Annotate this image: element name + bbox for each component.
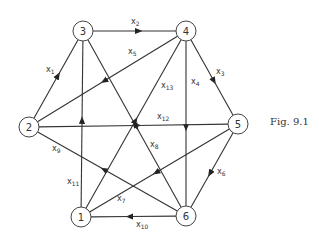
edge-label-x5: x5 bbox=[128, 47, 137, 57]
edge-label-x11: x11 bbox=[67, 177, 80, 187]
edge-x7 bbox=[90, 173, 156, 212]
node-2: 2 bbox=[19, 117, 39, 137]
edge-label-x8: x8 bbox=[150, 140, 159, 150]
edge-x13 bbox=[135, 40, 181, 121]
edge-x13-arrow-segment bbox=[86, 121, 136, 209]
node-1: 1 bbox=[71, 207, 91, 227]
edge-x12-arrow-segment bbox=[39, 125, 138, 126]
edge-x12 bbox=[137, 124, 228, 125]
node-label: 1 bbox=[78, 212, 84, 223]
edge-x11 bbox=[82, 41, 83, 120]
edge-x5 bbox=[38, 81, 105, 122]
edge-x11-arrow-segment bbox=[81, 120, 82, 207]
edge-label-x2: x2 bbox=[131, 17, 140, 27]
edge-label-x3: x3 bbox=[216, 67, 225, 77]
edge-x3 bbox=[214, 81, 233, 115]
node-label: 4 bbox=[183, 26, 189, 37]
node-4: 4 bbox=[176, 21, 196, 41]
edge-label-x13: x13 bbox=[161, 81, 174, 91]
node-3: 3 bbox=[73, 21, 93, 41]
edge-label-x4: x4 bbox=[191, 77, 200, 87]
node-label: 5 bbox=[235, 119, 241, 130]
node-label: 3 bbox=[80, 26, 86, 37]
edge-label-x9: x9 bbox=[52, 144, 61, 154]
figure-caption: Fig. 9.1 bbox=[270, 116, 309, 127]
edge-x6 bbox=[191, 173, 210, 207]
edge-label-x7: x7 bbox=[117, 194, 126, 204]
edges-layer bbox=[34, 31, 233, 217]
edge-x3-arrow-segment bbox=[191, 40, 214, 81]
edge-x1 bbox=[58, 40, 78, 76]
node-label: 2 bbox=[26, 122, 32, 133]
edge-x5-arrow-segment bbox=[104, 36, 177, 81]
edge-x8 bbox=[136, 127, 181, 207]
node-6: 6 bbox=[176, 206, 196, 226]
edge-label-x10: x10 bbox=[136, 220, 149, 230]
edge-label-x12: x12 bbox=[157, 112, 170, 122]
node-5: 5 bbox=[228, 114, 248, 134]
edge-x9-arrow-segment bbox=[104, 170, 177, 212]
edge-label-x6: x6 bbox=[217, 167, 226, 177]
edge-x9 bbox=[38, 132, 104, 170]
node-label: 6 bbox=[183, 211, 189, 222]
edge-label-x1: x1 bbox=[46, 65, 55, 75]
